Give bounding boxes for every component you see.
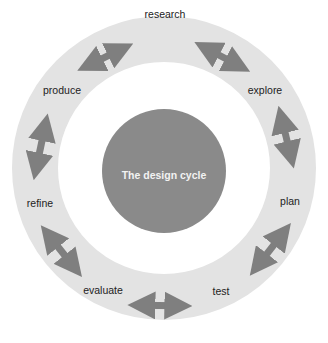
double-arrow-icon-test-evaluate — [140, 305, 177, 306]
stage-label-research: research — [145, 8, 186, 20]
stage-label-refine: refine — [27, 197, 53, 209]
stage-label-produce: produce — [43, 84, 81, 96]
stage-label-test: test — [213, 285, 230, 297]
stage-label-plan: plan — [280, 195, 300, 207]
center-title: The design cycle — [122, 169, 207, 181]
stage-label-evaluate: evaluate — [83, 284, 123, 296]
stage-label-explore: explore — [248, 84, 282, 96]
